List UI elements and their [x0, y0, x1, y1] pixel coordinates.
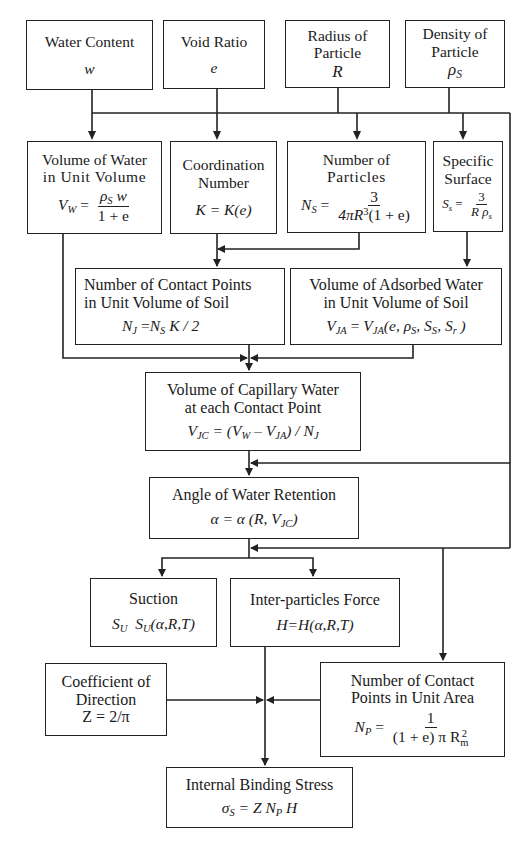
contact-area-formula: NP = 1(1 + e) π R2m — [355, 710, 471, 747]
angle-formula: α = α (R, VJC) — [210, 510, 297, 530]
water-content-box: Water Content w — [26, 20, 153, 90]
contact-points-volume-title-line1: Number of Contact Points — [84, 276, 252, 294]
density-symbol: ρS — [448, 60, 462, 82]
void-ratio-box: Void Ratio e — [163, 20, 265, 89]
adsorbed-water-title-line2: in Unit Volume of Soil — [323, 294, 468, 312]
coefficient-title-line1: Coefficient of — [61, 673, 150, 691]
density-title-line1: Density of — [422, 25, 487, 42]
radius-title-line2: Particle — [314, 44, 361, 61]
capillary-title-line2: at each Contact Point — [185, 399, 321, 417]
specific-surface-title-line2: Surface — [444, 170, 491, 187]
radius-of-particle-box: Radius of Particle R — [285, 20, 390, 88]
coordination-number-box: Coordination Number K = K(e) — [170, 141, 277, 234]
inter-particles-formula: H=H(α,R,T) — [276, 616, 353, 633]
number-of-particles-box: Number of Particles NS = 34πR3(1 + e) — [287, 141, 426, 233]
capillary-formula: VJC = (VW – VJA) / NJ — [187, 422, 318, 442]
contact-area-title-line1: Number of Contact — [351, 672, 475, 690]
adsorbed-water-box: Volume of Adsorbed Water in Unit Volume … — [290, 268, 502, 345]
angle-of-retention-box: Angle of Water Retention α = α (R, VJC) — [149, 477, 359, 539]
void-ratio-title: Void Ratio — [181, 33, 247, 50]
water-content-symbol: w — [84, 60, 94, 77]
suction-formula: SU SU(α,R,T) — [112, 615, 195, 635]
internal-binding-stress-box: Internal Binding Stress σS = Z NP H — [166, 767, 353, 828]
inter-particles-force-box: Inter-particles Force H=H(α,R,T) — [230, 578, 400, 647]
capillary-water-box: Volume of Capillary Water at each Contac… — [145, 372, 361, 451]
density-title-line2: Particle — [431, 43, 478, 60]
suction-box: Suction SU SU(α,R,T) — [90, 578, 217, 647]
coefficient-formula: Z = 2/π — [82, 708, 129, 726]
contact-area-title-line2: Points in Unit Area — [351, 689, 474, 707]
angle-title: Angle of Water Retention — [172, 486, 336, 504]
volume-of-water-box: Volume of Water in Unit Volume VW = ρS w… — [27, 141, 162, 234]
volume-of-water-formula: VW = ρS w1 + e — [58, 188, 131, 224]
contact-points-volume-box: Number of Contact Points in Unit Volume … — [75, 268, 285, 345]
specific-surface-title-line1: Specific — [443, 152, 494, 169]
contact-points-area-box: Number of Contact Points in Unit Area NP… — [320, 662, 505, 757]
radius-title-line1: Radius of — [308, 27, 368, 44]
inter-particles-title: Inter-particles Force — [250, 591, 380, 609]
suction-title: Suction — [129, 590, 178, 608]
adsorbed-water-formula: VJA = VJA(e, ρS, SS, Sr ) — [326, 317, 466, 337]
coefficient-title-line2: Direction — [76, 691, 136, 709]
specific-surface-formula: Ss = 3R ρs — [442, 190, 494, 221]
number-of-particles-formula: NS = 34πR3(1 + e) — [301, 189, 412, 224]
volume-of-water-title-line1: Volume of Water — [42, 151, 147, 168]
water-content-title: Water Content — [45, 33, 135, 50]
void-ratio-symbol: e — [211, 59, 218, 76]
specific-surface-box: Specific Surface Ss = 3R ρs — [433, 141, 503, 232]
coordination-title-line1: Coordination — [183, 156, 265, 173]
binding-stress-title: Internal Binding Stress — [186, 776, 334, 794]
particles-title-line1: Number of — [323, 151, 391, 168]
radius-symbol: R — [332, 62, 342, 81]
coordination-title-line2: Number — [198, 174, 249, 191]
coefficient-of-direction-box: Coefficient of Direction Z = 2/π — [45, 663, 167, 736]
contact-points-volume-formula: NJ =NS K / 2 — [122, 317, 199, 337]
volume-of-water-title-line2: in Unit Volume — [43, 168, 146, 185]
adsorbed-water-title-line1: Volume of Adsorbed Water — [309, 276, 483, 294]
contact-points-volume-title-line2: in Unit Volume of Soil — [84, 294, 229, 312]
coordination-formula: K = K(e) — [195, 201, 251, 218]
particles-title-line2: Particles — [327, 168, 386, 185]
capillary-title-line1: Volume of Capillary Water — [167, 381, 339, 399]
binding-stress-formula: σS = Z NP H — [222, 799, 297, 819]
density-of-particle-box: Density of Particle ρS — [405, 20, 505, 88]
